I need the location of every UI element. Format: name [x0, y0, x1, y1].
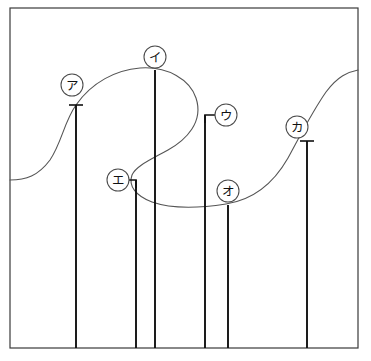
- i-label-text: イ: [149, 50, 162, 65]
- diagram-canvas: アイウエオカ: [0, 0, 371, 361]
- u-label-text: ウ: [220, 108, 233, 123]
- label-e-marker[interactable]: エ: [107, 169, 129, 191]
- ka-label-text: カ: [291, 120, 304, 135]
- o-label-text: オ: [222, 184, 235, 199]
- label-o-marker[interactable]: オ: [217, 180, 239, 202]
- label-i-marker[interactable]: イ: [144, 46, 166, 68]
- label-ka-marker[interactable]: カ: [286, 116, 308, 138]
- a-label-text: ア: [66, 78, 79, 93]
- label-u-marker[interactable]: ウ: [215, 104, 237, 126]
- diagram-frame: [10, 8, 358, 348]
- label-a-marker[interactable]: ア: [61, 74, 83, 96]
- e-label-text: エ: [112, 173, 125, 188]
- wave-diagram-svg: アイウエオカ: [0, 0, 371, 361]
